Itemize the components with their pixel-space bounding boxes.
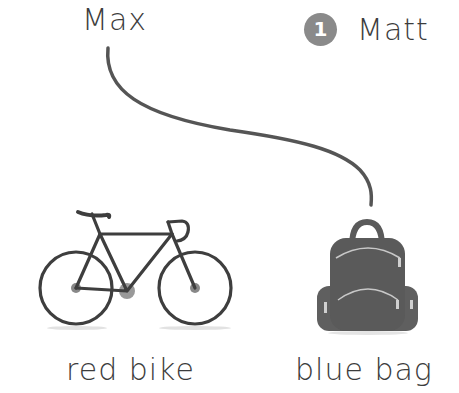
caption-red-bike: red bike: [66, 352, 195, 387]
matching-artwork: [0, 0, 459, 393]
connector-line: [108, 48, 372, 205]
bicycle-icon: [40, 212, 231, 330]
caption-blue-bag: blue bag: [295, 352, 433, 387]
backpack-icon: [317, 222, 418, 335]
